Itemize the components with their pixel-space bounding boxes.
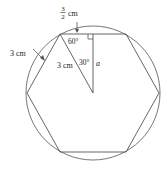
arrow-head-icon	[40, 55, 45, 61]
half-side-numerator: 3	[61, 5, 65, 13]
vertex-angle-label: 60°	[68, 37, 79, 46]
hexagon-diagram: 3 2 cm 3 cm 3 cm 60° 30° a	[0, 0, 167, 174]
arrow-head-icon	[75, 29, 79, 33]
half-side-unit: cm	[68, 9, 79, 18]
radius-length-label: 3 cm	[57, 61, 74, 70]
half-side-denominator: 2	[61, 13, 65, 21]
center-angle-label: 30°	[79, 58, 90, 67]
side-length-label: 3 cm	[10, 49, 27, 58]
right-angle-marker	[88, 34, 93, 39]
apothem-label: a	[96, 59, 100, 68]
